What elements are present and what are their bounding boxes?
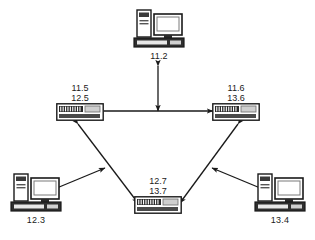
node-pc-top[interactable]: 11.2: [133, 8, 185, 50]
node-pc-bottom-left[interactable]: 12.3: [10, 172, 62, 214]
desktop-computer-icon: [10, 172, 62, 214]
link-switch-right-switch-bottom: [180, 124, 238, 203]
node-label-pc-top: 11.2: [133, 51, 185, 61]
node-label-switch-right-line2: 13.6: [212, 93, 260, 103]
node-label-switch-right-line1: 11.6: [212, 83, 260, 93]
network-switch-icon: [134, 196, 182, 214]
node-label-pc-bottom-left: 12.3: [10, 215, 62, 225]
network-diagram: 11.2 11.5 12.5: [0, 0, 315, 240]
link-switch-left-switch-bottom: [78, 124, 138, 203]
node-label-switch-right: 11.6 13.6: [212, 83, 260, 103]
node-label-switch-bottom: 12.7 13.7: [134, 176, 182, 196]
network-switch-icon: [212, 103, 260, 121]
desktop-computer-icon: [254, 172, 306, 214]
network-switch-icon: [56, 103, 104, 121]
node-label-switch-bottom-line2: 13.7: [134, 186, 182, 196]
node-label-pc-bottom-right: 13.4: [254, 215, 306, 225]
node-label-switch-bottom-line1: 12.7: [134, 176, 182, 186]
node-label-switch-left: 11.5 12.5: [56, 83, 104, 103]
desktop-computer-icon: [133, 8, 185, 50]
node-pc-bottom-right[interactable]: 13.4: [254, 172, 306, 214]
node-label-switch-left-line1: 11.5: [56, 83, 104, 93]
node-label-switch-left-line2: 12.5: [56, 93, 104, 103]
